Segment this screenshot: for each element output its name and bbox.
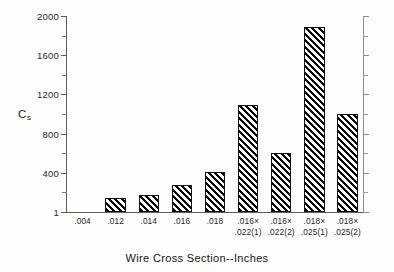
y-axis-title-subscript: s bbox=[27, 113, 31, 122]
bar-slot bbox=[238, 16, 259, 212]
x-tick-label-line: .025(2) bbox=[334, 227, 361, 238]
x-axis-title: Wire Cross Section--Inches bbox=[0, 252, 394, 264]
x-axis-ticklabels: .004.012.014.016.018.016×.022(1).016×.02… bbox=[66, 216, 364, 250]
y-tick-label: 800 bbox=[43, 128, 59, 139]
bar-slot bbox=[271, 16, 292, 212]
bar[interactable] bbox=[139, 195, 160, 212]
bar-slot bbox=[72, 16, 93, 212]
bar-chart-figure: Cs 1400800120016002000 .004.012.014.016.… bbox=[0, 0, 394, 272]
x-tick-label-line: .016 bbox=[174, 216, 191, 227]
x-tick-label-line: .018× bbox=[334, 216, 361, 227]
plot-area: 1400800120016002000 bbox=[66, 16, 364, 213]
x-tick-label-line: .016× bbox=[235, 216, 262, 227]
x-tick-label-line: .022(1) bbox=[235, 227, 262, 238]
bar[interactable] bbox=[337, 114, 358, 212]
x-tick-label-line: .018× bbox=[301, 216, 328, 227]
x-tick-label-line: .014 bbox=[140, 216, 157, 227]
y-tick-label: 1200 bbox=[37, 89, 59, 100]
x-tick-label: .018 bbox=[207, 216, 224, 227]
bars-layer bbox=[66, 16, 364, 213]
bar-slot bbox=[172, 16, 193, 212]
bar-slot bbox=[105, 16, 126, 212]
x-tick-label-line: .016× bbox=[268, 216, 295, 227]
x-tick-label: .018×.025(1) bbox=[301, 216, 328, 237]
bar[interactable] bbox=[304, 27, 325, 212]
x-tick-label-line: .025(1) bbox=[301, 227, 328, 238]
y-axis-title-base: C bbox=[18, 108, 27, 120]
x-tick-label-line: .022(2) bbox=[268, 227, 295, 238]
y-tick-label: 1600 bbox=[37, 50, 59, 61]
y-tick-label: 2000 bbox=[37, 11, 59, 22]
bar[interactable] bbox=[105, 198, 126, 212]
x-tick-label: .016 bbox=[174, 216, 191, 227]
x-tick-label: .014 bbox=[140, 216, 157, 227]
bar[interactable] bbox=[205, 172, 226, 212]
y-tick-label: 400 bbox=[43, 167, 59, 178]
x-tick-label: .004 bbox=[74, 216, 91, 227]
x-tick-label: .016×.022(2) bbox=[268, 216, 295, 237]
x-tick-label-line: .004 bbox=[74, 216, 91, 227]
x-tick-label-line: .018 bbox=[207, 216, 224, 227]
y-axis-title: Cs bbox=[18, 108, 31, 122]
bar-slot bbox=[304, 16, 325, 212]
bar-slot bbox=[205, 16, 226, 212]
bar[interactable] bbox=[238, 105, 259, 212]
x-tick-label-line: .012 bbox=[107, 216, 124, 227]
x-tick-label: .016×.022(1) bbox=[235, 216, 262, 237]
bar-slot bbox=[337, 16, 358, 212]
bar-slot bbox=[139, 16, 160, 212]
bar[interactable] bbox=[172, 185, 193, 212]
x-tick-label: .012 bbox=[107, 216, 124, 227]
bar[interactable] bbox=[271, 153, 292, 212]
x-tick-label: .018×.025(2) bbox=[334, 216, 361, 237]
y-tick-label: 1 bbox=[54, 207, 59, 218]
